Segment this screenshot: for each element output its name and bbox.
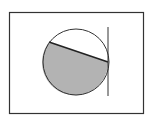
diagram-canvas [0,0,147,119]
